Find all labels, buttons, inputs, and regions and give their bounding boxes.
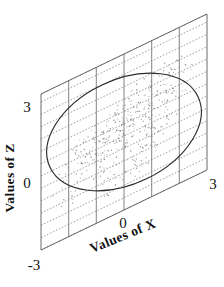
data-point [117, 118, 118, 119]
data-point [128, 114, 129, 115]
data-point [149, 119, 150, 120]
data-point [89, 163, 90, 164]
data-point [139, 111, 141, 113]
data-point [158, 99, 160, 101]
data-point [112, 127, 113, 128]
data-point [144, 95, 146, 97]
data-point [155, 150, 156, 151]
data-point [170, 67, 172, 69]
data-point [150, 81, 151, 82]
data-point [151, 111, 152, 112]
data-point [138, 143, 140, 145]
data-point [102, 133, 104, 135]
data-point [115, 114, 116, 115]
data-point [65, 174, 66, 175]
data-point [136, 89, 138, 91]
data-point [144, 114, 146, 116]
data-point [75, 145, 77, 147]
data-point [153, 108, 155, 110]
data-point [151, 136, 153, 138]
data-point [134, 176, 136, 178]
data-point [146, 157, 147, 158]
data-point [121, 89, 123, 91]
data-point [108, 137, 110, 139]
data-point [83, 141, 85, 143]
data-point [164, 62, 166, 64]
data-point [149, 105, 151, 107]
data-point [70, 191, 71, 192]
data-point [141, 119, 143, 121]
data-point [104, 171, 105, 172]
data-point [155, 116, 156, 117]
data-point [167, 100, 169, 102]
data-point [92, 159, 94, 161]
data-point [132, 135, 133, 136]
data-point [76, 173, 78, 175]
data-point [77, 181, 79, 183]
data-point [128, 98, 129, 99]
data-point [61, 187, 62, 188]
data-point [132, 159, 133, 160]
data-point [163, 70, 164, 71]
data-point [103, 171, 105, 173]
data-point [88, 117, 89, 118]
data-point [153, 141, 154, 142]
data-point [136, 107, 138, 109]
data-point [109, 130, 111, 132]
data-point [108, 140, 109, 141]
x-tick-neg3: -3 [28, 257, 41, 273]
data-point [150, 145, 152, 147]
data-point [143, 121, 145, 123]
data-point [99, 141, 101, 143]
data-point [114, 114, 115, 115]
data-point [151, 102, 152, 103]
data-point [131, 94, 132, 95]
data-point [81, 173, 83, 175]
data-point [120, 177, 121, 178]
data-point [115, 132, 116, 133]
data-point [119, 134, 121, 136]
data-point [145, 94, 146, 95]
data-point [165, 84, 166, 85]
data-point [145, 116, 147, 118]
data-point [147, 104, 149, 106]
data-point [131, 136, 133, 138]
data-point [96, 155, 97, 156]
data-point [178, 67, 180, 69]
data-point [160, 126, 162, 128]
data-point [174, 69, 176, 71]
data-point [116, 157, 118, 159]
data-point [106, 137, 107, 138]
data-point [107, 177, 108, 178]
data-point [108, 106, 110, 108]
data-point [168, 119, 169, 120]
data-point [118, 114, 120, 116]
data-point [113, 174, 115, 176]
data-point [154, 133, 156, 135]
data-point [157, 93, 158, 94]
data-point [141, 160, 143, 162]
data-point [150, 128, 151, 129]
data-point [122, 119, 124, 121]
data-point [165, 89, 166, 90]
data-point [102, 142, 103, 143]
z-tick-0: 0 [23, 175, 31, 191]
data-point [113, 139, 114, 140]
data-point [75, 190, 77, 192]
data-point [72, 199, 73, 200]
data-point [104, 138, 105, 139]
data-point [130, 112, 131, 113]
data-point [101, 160, 102, 161]
data-point [124, 145, 126, 147]
data-point [104, 196, 106, 198]
data-point [87, 154, 89, 156]
data-point [123, 124, 125, 126]
data-point [89, 153, 91, 155]
data-point [136, 92, 138, 94]
data-point [162, 101, 164, 103]
data-point [61, 206, 63, 208]
data-point [80, 145, 81, 146]
data-point [132, 156, 133, 157]
data-point [101, 155, 102, 156]
data-point [126, 126, 127, 127]
